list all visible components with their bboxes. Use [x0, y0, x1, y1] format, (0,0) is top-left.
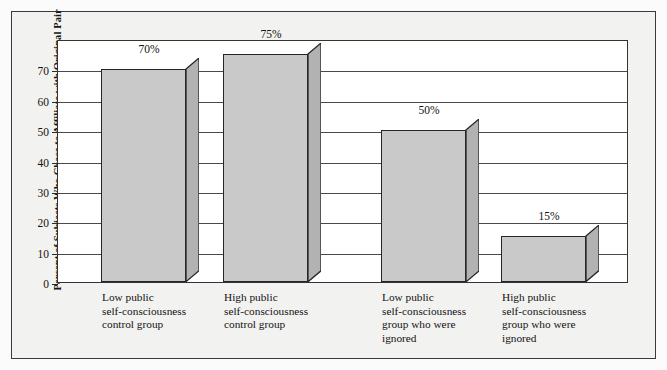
tick-label-0: 0	[43, 278, 49, 290]
tick-label-10: 10	[38, 248, 50, 260]
tick-mark-40	[52, 163, 58, 164]
bar-4[interactable]	[501, 225, 599, 282]
bar-4-front-face	[501, 236, 586, 282]
plot-panel: 010203040506070	[57, 40, 628, 283]
tick-mark-0	[52, 284, 58, 285]
category-label-1: Low public self-consciousness control gr…	[102, 291, 220, 332]
bar-3-value-label: 50%	[380, 104, 478, 116]
tick-mark-10	[52, 254, 58, 255]
tick-mark-50	[52, 132, 58, 133]
category-label-3: Low public self-consciousness group who …	[382, 291, 500, 345]
tick-mark-30	[52, 193, 58, 194]
category-label-2: High public self-consciousness control g…	[224, 291, 342, 332]
tick-label-50: 50	[38, 126, 50, 138]
bar-1-front-face	[101, 69, 186, 282]
bar-3[interactable]	[381, 119, 479, 282]
tick-label-70: 70	[38, 65, 50, 77]
bar-4-value-label: 15%	[500, 210, 598, 222]
tick-label-20: 20	[38, 217, 50, 229]
bar-2-front-face	[223, 54, 308, 282]
bar-1[interactable]	[101, 58, 199, 282]
tick-label-40: 40	[38, 157, 50, 169]
bar-3-front-face	[381, 130, 466, 282]
bar-1-value-label: 70%	[100, 43, 198, 55]
chart-figure: Percent of Subjects Who Chose to Affilia…	[0, 0, 667, 370]
tick-mark-70	[52, 71, 58, 72]
bar-2-value-label: 75%	[222, 28, 320, 40]
tick-mark-60	[52, 102, 58, 103]
tick-mark-20	[52, 223, 58, 224]
tick-label-30: 30	[38, 187, 50, 199]
tick-label-60: 60	[38, 96, 50, 108]
bar-2[interactable]	[223, 43, 321, 282]
category-label-4: High public self-consciousness group who…	[502, 291, 620, 345]
